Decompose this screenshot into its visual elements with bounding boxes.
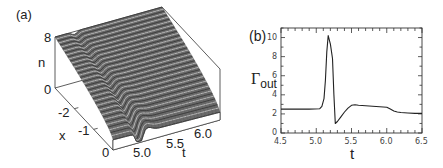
surface-plot-canvas <box>0 0 232 168</box>
x-axis-label-t: t <box>350 147 354 160</box>
x-tick-minus2: -2 <box>58 106 70 119</box>
panel-b-label: (b) <box>249 30 266 43</box>
x-tick-label: 6.0 <box>380 138 393 146</box>
x-tick-label: 5.5 <box>345 138 358 146</box>
y-tick-label: 8 <box>272 53 277 61</box>
y-axis-label-main: Γ <box>251 70 260 87</box>
y-tick-label: 6 <box>272 72 277 80</box>
panel-b-line-plot: (b) Γout t 0 2 4 6 8 10 4.5 5.0 5.5 6.0 … <box>232 0 443 168</box>
z-tick-8: 8 <box>44 31 51 44</box>
plot-frame <box>281 28 422 133</box>
y-tick-label: 4 <box>272 91 277 99</box>
y-tick-label: 2 <box>272 110 277 118</box>
t-tick-5-0: 5.0 <box>133 146 151 159</box>
t-tick-6-0: 6.0 <box>194 127 212 140</box>
x-tick-label: 6.5 <box>415 138 428 146</box>
panel-a-label: (a) <box>16 8 32 21</box>
y-tick-label: 10 <box>267 34 277 42</box>
y-tick-label: 0 <box>272 129 277 137</box>
z-axis-label-n: n <box>38 56 45 69</box>
panel-a-surface-plot: (a) 8 n 0 -2 x -1 0 5.0 5.5 t 6.0 <box>0 0 232 168</box>
x-tick-label: 4.5 <box>274 138 287 146</box>
x-tick-label: 5.0 <box>309 138 322 146</box>
x-tick-minus1: -1 <box>78 124 90 137</box>
z-tick-0: 0 <box>44 83 51 96</box>
x-tick-0: 0 <box>102 146 109 159</box>
gamma-out-series <box>281 36 422 124</box>
t-axis-label: t <box>182 146 186 159</box>
x-axis-label: x <box>59 129 66 142</box>
